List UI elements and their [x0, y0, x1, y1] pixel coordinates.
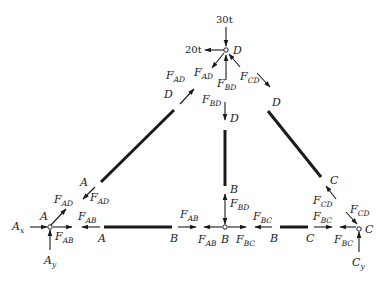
pin-a	[48, 225, 52, 229]
member-cd: D C FCD	[257, 73, 339, 209]
member-bc-end-c-label: C	[306, 232, 315, 245]
joint-c: FCD C FBC Cy	[333, 203, 374, 271]
joint-a-label: A	[39, 210, 48, 223]
reaction-ay-label: Ay	[43, 254, 57, 269]
member-ab: FAB A B FAB	[77, 208, 199, 245]
joint-c-force-bc-label: FBC	[333, 233, 353, 248]
truss-diagram: 30t 20t D FAD FBD FCD FAD D A FAD FBD D …	[0, 0, 383, 283]
joint-c-label: C	[365, 223, 374, 236]
member-cd-force-label-bottom: FCD	[312, 194, 332, 209]
member-cd-bar	[268, 111, 321, 177]
joint-a-force-ab-label: FAB	[54, 230, 74, 245]
member-ad-end-d-label: D	[163, 88, 173, 101]
member-cd-end-d-label: D	[271, 96, 281, 109]
reaction-ax-label: Ax	[11, 220, 25, 235]
joint-a: FAD Ax A FAB Ay	[11, 193, 74, 269]
force-ad-at-d-label: FAD	[193, 66, 213, 81]
member-bc: FBC B C FBC	[252, 210, 332, 245]
member-cd-end-c-label: C	[330, 174, 339, 187]
member-ad-force-label-bottom: FAD	[89, 191, 109, 206]
load-30t-label: 30t	[216, 14, 233, 25]
joint-d-label: D	[232, 44, 242, 57]
joint-b-force-bc-label: FBC	[235, 233, 255, 248]
joint-a-force-ad-arrow	[51, 209, 66, 225]
force-ad-at-d-arrow	[212, 53, 224, 68]
joint-c-force-cd-label: FCD	[349, 203, 369, 218]
member-bc-force-label-right: FBC	[312, 210, 332, 225]
member-ab-end-b-label: B	[169, 232, 178, 245]
member-ab-force-label-left: FAB	[77, 210, 97, 225]
member-bd-force-label-top: FBD	[201, 93, 221, 108]
member-ad-end-a-label: A	[79, 176, 88, 189]
member-bc-force-label-left: FBC	[252, 210, 272, 225]
member-bd-force-label-bottom: FBD	[229, 197, 249, 212]
member-bd-end-b-label: B	[229, 183, 238, 196]
member-bd: FBD D B FBD	[201, 93, 249, 212]
member-bc-end-b-label: B	[269, 232, 278, 245]
member-ad-force-label-top: FAD	[165, 69, 185, 84]
member-ab-end-a-label: A	[97, 232, 106, 245]
pin-c	[357, 227, 361, 231]
joint-a-force-ad-label: FAD	[53, 193, 73, 208]
reaction-cy-label: Cy	[352, 256, 365, 271]
joint-b-label: B	[220, 233, 229, 246]
pin-d	[224, 48, 228, 52]
load-20t-label: 20t	[185, 44, 202, 55]
member-ad-arrow-top	[180, 89, 194, 104]
joint-b: FAB B FBC	[197, 212, 255, 248]
joint-d: 30t 20t D FAD FBD FCD	[185, 14, 259, 92]
joint-b-force-ab-label: FAB	[197, 233, 217, 248]
member-bd-end-d-label: D	[229, 112, 239, 125]
member-ad: FAD D A FAD	[79, 69, 194, 206]
member-ad-bar	[101, 110, 174, 182]
member-ab-force-label-right: FAB	[179, 208, 199, 223]
pin-b	[223, 225, 227, 229]
force-cd-at-d-label: FCD	[239, 70, 259, 85]
member-cd-arrow-bottom	[326, 186, 336, 199]
